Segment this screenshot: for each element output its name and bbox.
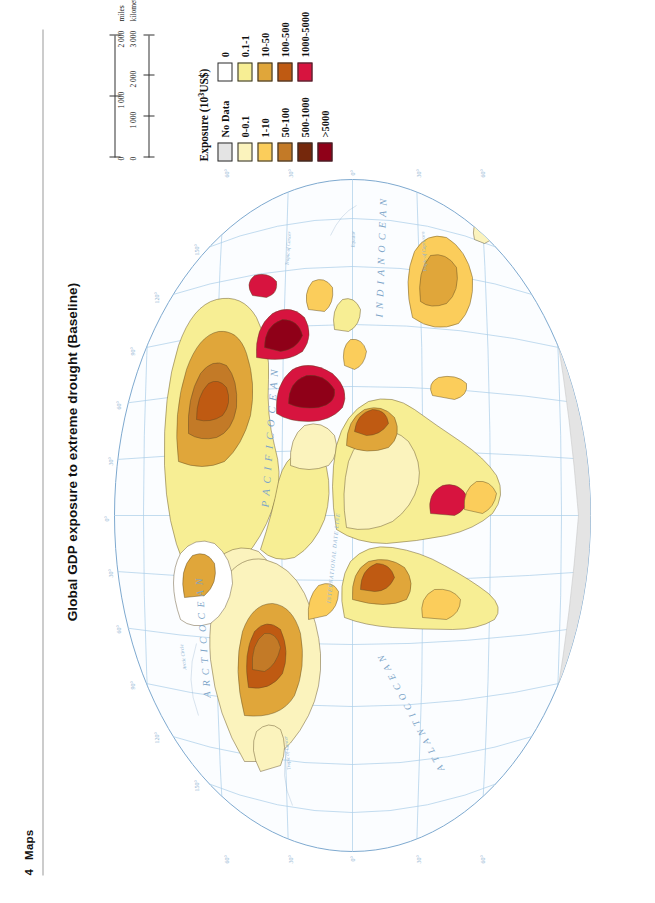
svg-text:60°: 60° (223, 854, 229, 863)
section-name: Maps (22, 829, 34, 859)
svg-text:30°: 30° (415, 854, 421, 863)
legend-title-tail: US$) (198, 68, 210, 92)
svg-text:90°: 90° (129, 346, 135, 355)
legend-item-label: No Data (219, 100, 230, 137)
legend-item-label: 1-10 (259, 118, 270, 137)
legend-swatch-icon (277, 142, 292, 161)
scale-km-row: 0 1 000 2 000 3 000 kilometers (138, 11, 158, 161)
svg-text:90°: 90° (129, 680, 135, 689)
legend-swatch-icon (257, 62, 272, 81)
svg-text:60°: 60° (479, 854, 485, 863)
svg-text:0°: 0° (349, 855, 355, 861)
svg-text:30°: 30° (287, 168, 293, 177)
svg-text:Equator: Equator (350, 230, 355, 248)
page-number: 4 (22, 868, 34, 875)
legend-item-1-10[interactable]: 1-10 (257, 97, 272, 161)
legend-title: Exposure (103US$) (196, 11, 210, 161)
legend-swatch-icon (237, 62, 252, 81)
map-legend: Exposure (103US$) No Data 0 0-0.1 0.1-1 … (196, 11, 332, 161)
scale-bar: 0 1 000 2 000 miles 0 1 000 2 000 3 000 … (104, 11, 158, 161)
scale-km-tick-1: 1 000 (128, 111, 137, 128)
header-rule (42, 29, 43, 875)
svg-text:30°: 30° (107, 456, 113, 465)
legend-item-10-50[interactable]: 10-50 (257, 11, 272, 81)
svg-text:0°: 0° (349, 169, 355, 175)
legend-swatch-grid: No Data 0 0-0.1 0.1-1 1-10 10-50 (217, 11, 332, 161)
legend-swatch-icon (297, 142, 312, 161)
svg-text:120°: 120° (153, 731, 159, 743)
legend-swatch-icon (277, 62, 292, 81)
running-head: 4 Maps (22, 829, 34, 875)
legend-swatch-icon (297, 62, 312, 81)
legend-item-label: 50-100 (279, 107, 290, 137)
scale-miles-tick-1: 1 000 (116, 91, 125, 108)
legend-item-0[interactable]: 0 (217, 11, 232, 81)
scale-miles-unit: miles (116, 5, 125, 21)
svg-text:30°: 30° (287, 854, 293, 863)
legend-item-gt-5000[interactable]: >5000 (317, 97, 332, 161)
legend-item-label: 0-0.1 (239, 115, 250, 137)
legend-swatch-icon (237, 142, 252, 161)
scale-miles-tick-2: 2 000 (116, 30, 125, 47)
legend-swatch-icon (217, 62, 232, 81)
scale-km-tick-3: 3 000 (128, 30, 137, 47)
atlas-page: 4 Maps Global GDP exposure to extreme dr… (0, 0, 655, 903)
legend-item-1000-5000[interactable]: 1000-5000 (297, 11, 312, 81)
svg-text:30°: 30° (415, 168, 421, 177)
svg-text:30°: 30° (107, 568, 113, 577)
svg-text:60°: 60° (115, 624, 121, 633)
svg-text:60°: 60° (479, 168, 485, 177)
legend-swatch-icon (217, 142, 232, 161)
svg-text:0°: 0° (103, 515, 109, 521)
legend-item-label: 0 (219, 51, 230, 56)
legend-item-0-0-1[interactable]: 0-0.1 (237, 97, 252, 161)
legend-item-label: 10-50 (259, 32, 270, 57)
svg-text:120°: 120° (153, 291, 159, 303)
legend-item-100-500[interactable]: 100-500 (277, 11, 292, 81)
legend-swatch-icon (257, 142, 272, 161)
legend-item-0-1-1[interactable]: 0.1-1 (237, 11, 252, 81)
figure-title: Global GDP exposure to extreme drought (… (64, 0, 79, 903)
legend-item-label: 100-500 (279, 22, 290, 57)
legend-title-main: Exposure (10 (198, 96, 210, 161)
scale-miles-tick-0: 0 (116, 156, 125, 160)
legend-item-label: >5000 (319, 110, 330, 137)
legend-item-no-data[interactable]: No Data (217, 97, 232, 161)
legend-item-50-100[interactable]: 50-100 (277, 97, 292, 161)
scale-miles-row: 0 1 000 2 000 miles (104, 11, 124, 161)
scale-km-unit: kilometers (128, 0, 137, 21)
legend-swatch-icon (317, 142, 332, 161)
svg-text:A T L A N T I C O C E A N: A T L A N T I C O C E A N (504, 165, 552, 191)
scale-km-tick-2: 2 000 (128, 70, 137, 87)
legend-item-label: 500-1000 (299, 97, 310, 137)
legend-item-label: 1000-5000 (299, 11, 310, 57)
svg-text:150°: 150° (193, 243, 199, 255)
world-map: A R C T I C O C E A N A T L A N T I C O … (92, 165, 612, 865)
legend-title-exponent: 3 (196, 92, 205, 96)
legend-item-label: 0.1-1 (239, 35, 250, 57)
svg-text:60°: 60° (223, 168, 229, 177)
legend-item-500-1000[interactable]: 500-1000 (297, 97, 312, 161)
scale-km-tick-0: 0 (128, 156, 137, 160)
svg-text:60°: 60° (115, 400, 121, 409)
svg-text:150°: 150° (193, 779, 199, 791)
